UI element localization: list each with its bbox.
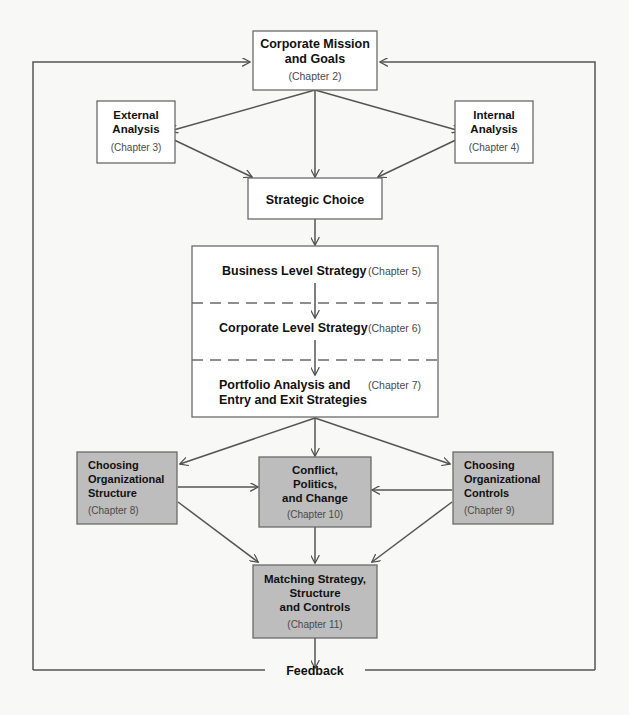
box-title-line: and Goals — [285, 52, 345, 66]
panel-strategy-levels: Business Level Strategy (Chapter 5) Corp… — [192, 246, 438, 417]
box-title-line: External — [113, 109, 158, 121]
box-chapter-label: (Chapter 9) — [464, 505, 515, 516]
box-title-line: and Change — [282, 492, 348, 504]
box-title-line: and Controls — [280, 601, 351, 613]
panel-row-corporate-level-strategy: Corporate Level Strategy (Chapter 6) — [219, 321, 421, 335]
box-chapter-label: (Chapter 11) — [287, 619, 342, 630]
strategic-management-process-diagram: Feedback Corporate Mission and Goals (Ch… — [0, 0, 629, 715]
box-title-line: Conflict, — [292, 464, 338, 476]
box-choosing-organizational-controls: Choosing Organizational Controls (Chapte… — [453, 452, 553, 524]
panel-row-business-level-strategy: Business Level Strategy (Chapter 5) — [222, 264, 421, 278]
panel-row-title: Entry and Exit Strategies — [219, 393, 367, 407]
panel-row-title: Portfolio Analysis and — [219, 378, 351, 392]
box-title-line: Structure — [289, 587, 340, 599]
box-title-line: Corporate Mission — [260, 37, 370, 51]
box-title-line: Structure — [88, 487, 137, 499]
feedback-label: Feedback — [286, 664, 344, 678]
box-chapter-label: (Chapter 8) — [88, 505, 139, 516]
box-title-line: Controls — [464, 487, 509, 499]
connectors-upper — [170, 90, 460, 177]
box-matching-strategy-structure-and-controls: Matching Strategy, Structure and Control… — [253, 565, 377, 638]
box-title-line: Choosing — [88, 459, 139, 471]
panel-row-title: Corporate Level Strategy — [219, 321, 368, 335]
box-choosing-organizational-structure: Choosing Organizational Structure (Chapt… — [77, 452, 177, 524]
box-title-line: Matching Strategy, — [264, 573, 366, 585]
box-chapter-label: (Chapter 3) — [111, 142, 162, 153]
diagram-canvas: Feedback Corporate Mission and Goals (Ch… — [0, 0, 629, 715]
box-title-line: Politics, — [293, 478, 337, 490]
box-chapter-label: (Chapter 4) — [469, 142, 520, 153]
box-title-line: Analysis — [470, 123, 517, 135]
panel-row-chapter: (Chapter 7) — [368, 379, 421, 391]
box-conflict-politics-and-change: Conflict, Politics, and Change (Chapter … — [259, 457, 371, 527]
box-title-line: Analysis — [112, 123, 159, 135]
box-title-line: Strategic Choice — [266, 193, 365, 207]
box-title-line: Organizational — [88, 473, 164, 485]
panel-row-title: Business Level Strategy — [222, 264, 367, 278]
box-strategic-choice: Strategic Choice — [248, 178, 382, 219]
panel-row-chapter: (Chapter 6) — [368, 322, 421, 334]
box-title-line: Organizational — [464, 473, 540, 485]
box-chapter-label: (Chapter 10) — [287, 509, 343, 520]
box-chapter-label: (Chapter 2) — [288, 70, 341, 82]
box-title-line: Choosing — [464, 459, 515, 471]
box-title-line: Internal — [473, 109, 515, 121]
panel-row-chapter: (Chapter 5) — [368, 265, 421, 277]
box-corporate-mission-and-goals: Corporate Mission and Goals (Chapter 2) — [253, 31, 377, 90]
box-external-analysis: External Analysis (Chapter 3) — [97, 101, 175, 163]
box-internal-analysis: Internal Analysis (Chapter 4) — [455, 101, 533, 163]
